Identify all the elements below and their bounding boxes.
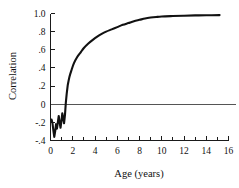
y-tick-label: 1.0 [34, 9, 46, 19]
y-tick-label: .2 [38, 81, 45, 91]
y-tick-label: -.2 [35, 118, 46, 128]
x-tick-label: 10 [157, 146, 167, 156]
chart-figure: 0246810121416 -.4-.20.2.4.6.81.0 Age (ye… [0, 0, 239, 188]
axis-lines [51, 14, 229, 141]
x-tick-label: 12 [179, 146, 189, 156]
x-tick-label: 6 [115, 146, 120, 156]
y-tick-label: -.4 [35, 136, 46, 146]
correlation-vs-age-chart: 0246810121416 -.4-.20.2.4.6.81.0 Age (ye… [0, 0, 239, 188]
x-axis-tick-marks [51, 136, 229, 141]
y-axis-tick-labels: -.4-.20.2.4.6.81.0 [34, 9, 46, 146]
data-curve-correlation-with-adult-iq [52, 15, 220, 137]
x-axis-title: Age (years) [114, 168, 164, 180]
x-tick-label: 14 [202, 146, 212, 156]
y-tick-label: .6 [38, 45, 45, 55]
data-series-group [52, 15, 220, 137]
y-tick-label: .4 [38, 63, 45, 73]
x-tick-label: 4 [93, 146, 98, 156]
x-axis-tick-labels: 0246810121416 [48, 146, 233, 156]
y-tick-label: 0 [41, 100, 46, 110]
x-tick-label: 2 [70, 146, 75, 156]
y-axis-title: Correlation [7, 51, 18, 100]
x-tick-label: 8 [137, 146, 142, 156]
y-tick-label: .8 [38, 27, 45, 37]
x-tick-label: 16 [224, 146, 234, 156]
x-tick-label: 0 [48, 146, 53, 156]
